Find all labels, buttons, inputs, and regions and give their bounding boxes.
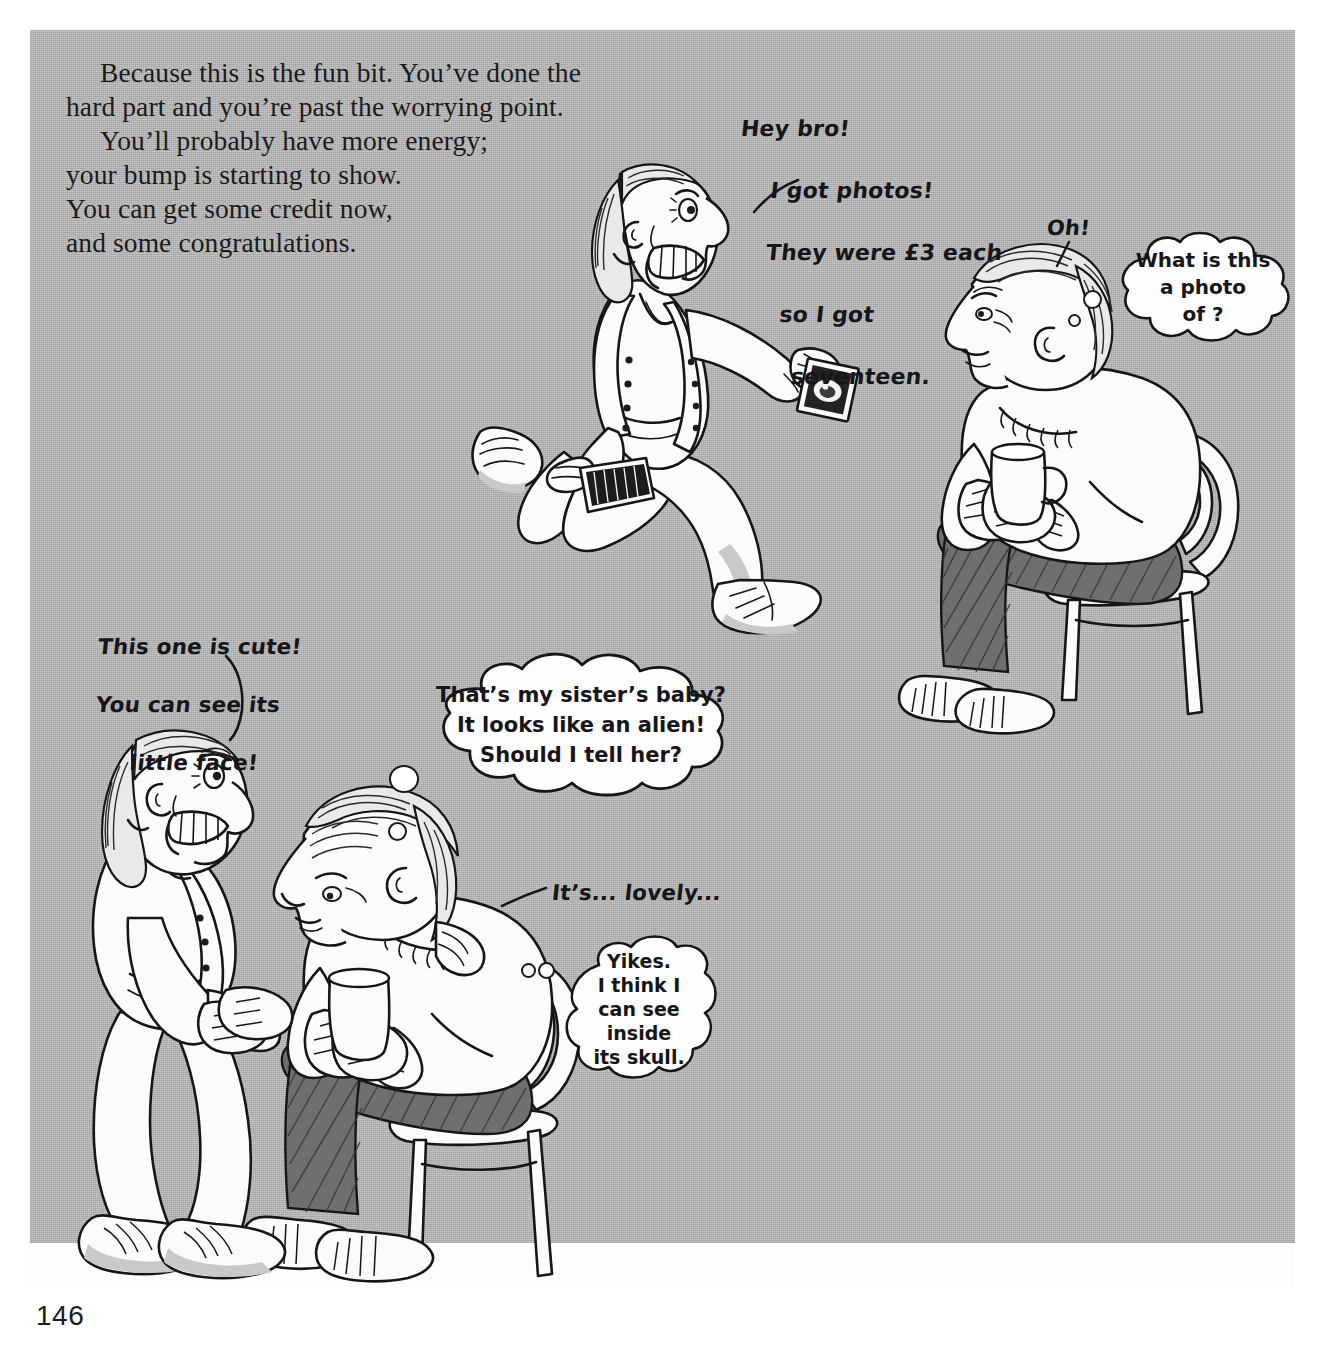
speech-oh: Oh! bbox=[1046, 216, 1092, 240]
body-line-2: hard part and you’re past the worrying p… bbox=[66, 90, 646, 124]
thought-pip-small-1 bbox=[1068, 314, 1081, 327]
thought-bubble-what-is-this: What is this a photo of ? bbox=[1108, 232, 1298, 347]
speech-hey-bro-line-4: so I got bbox=[778, 299, 998, 330]
thought-what-is-this-line-1: What is this bbox=[1136, 247, 1271, 274]
thought-yikes-line-1: Yikes. bbox=[607, 949, 671, 973]
thought-sisters-baby-line-1: That’s my sister’s baby? bbox=[436, 680, 726, 710]
page-number: 146 bbox=[36, 1300, 84, 1332]
thought-yikes-line-4: inside bbox=[607, 1021, 671, 1045]
thought-bubble-yikes-skull: Yikes. I think I can see inside its skul… bbox=[565, 935, 713, 1083]
thought-what-is-this-line-3: of ? bbox=[1182, 301, 1223, 328]
thought-pip-small-2 bbox=[388, 822, 407, 841]
thought-yikes-line-3: can see bbox=[598, 997, 679, 1021]
thought-pip-skull-1 bbox=[538, 962, 555, 979]
book-page: Because this is the fun bit. You’ve done… bbox=[0, 0, 1323, 1349]
thought-yikes-line-2: I think I bbox=[598, 973, 681, 997]
thought-what-is-this-line-2: a photo bbox=[1160, 274, 1246, 301]
speech-tail-lovely bbox=[498, 882, 554, 910]
speech-hey-bro-line-1: Hey bro! bbox=[739, 113, 1017, 144]
speech-hey-bro: Hey bro! I got photos! They were £3 each… bbox=[710, 82, 1020, 423]
thought-pip-large-1 bbox=[1083, 290, 1102, 309]
speech-tail-oh bbox=[1053, 240, 1083, 272]
speech-cute-line-3: little face! bbox=[128, 748, 291, 777]
speech-tail-hey-bro bbox=[736, 178, 806, 218]
thought-yikes-line-5: its skull. bbox=[593, 1045, 684, 1069]
bottom-scene-figures bbox=[58, 722, 638, 1302]
speech-this-one-is-cute: This one is cute! You can see its little… bbox=[81, 603, 306, 806]
thought-pip-skull-2 bbox=[521, 963, 536, 978]
speech-tail-cute bbox=[222, 654, 272, 744]
speech-cute-line-1: This one is cute! bbox=[97, 632, 304, 661]
thought-pip-large-2 bbox=[389, 765, 419, 793]
thought-bubble-sisters-baby: That’s my sister’s baby? It looks like a… bbox=[430, 655, 732, 795]
thought-sisters-baby-line-3: Should I tell her? bbox=[480, 740, 682, 770]
speech-hey-bro-line-5: seventeen. bbox=[789, 361, 991, 392]
thought-sisters-baby-line-2: It looks like an alien! bbox=[457, 710, 705, 740]
body-line-1: Because this is the fun bit. You’ve done… bbox=[66, 56, 646, 90]
speech-hey-bro-line-3: They were £3 each bbox=[764, 237, 1004, 268]
speech-its-lovely: It’s... lovely... bbox=[551, 880, 723, 905]
